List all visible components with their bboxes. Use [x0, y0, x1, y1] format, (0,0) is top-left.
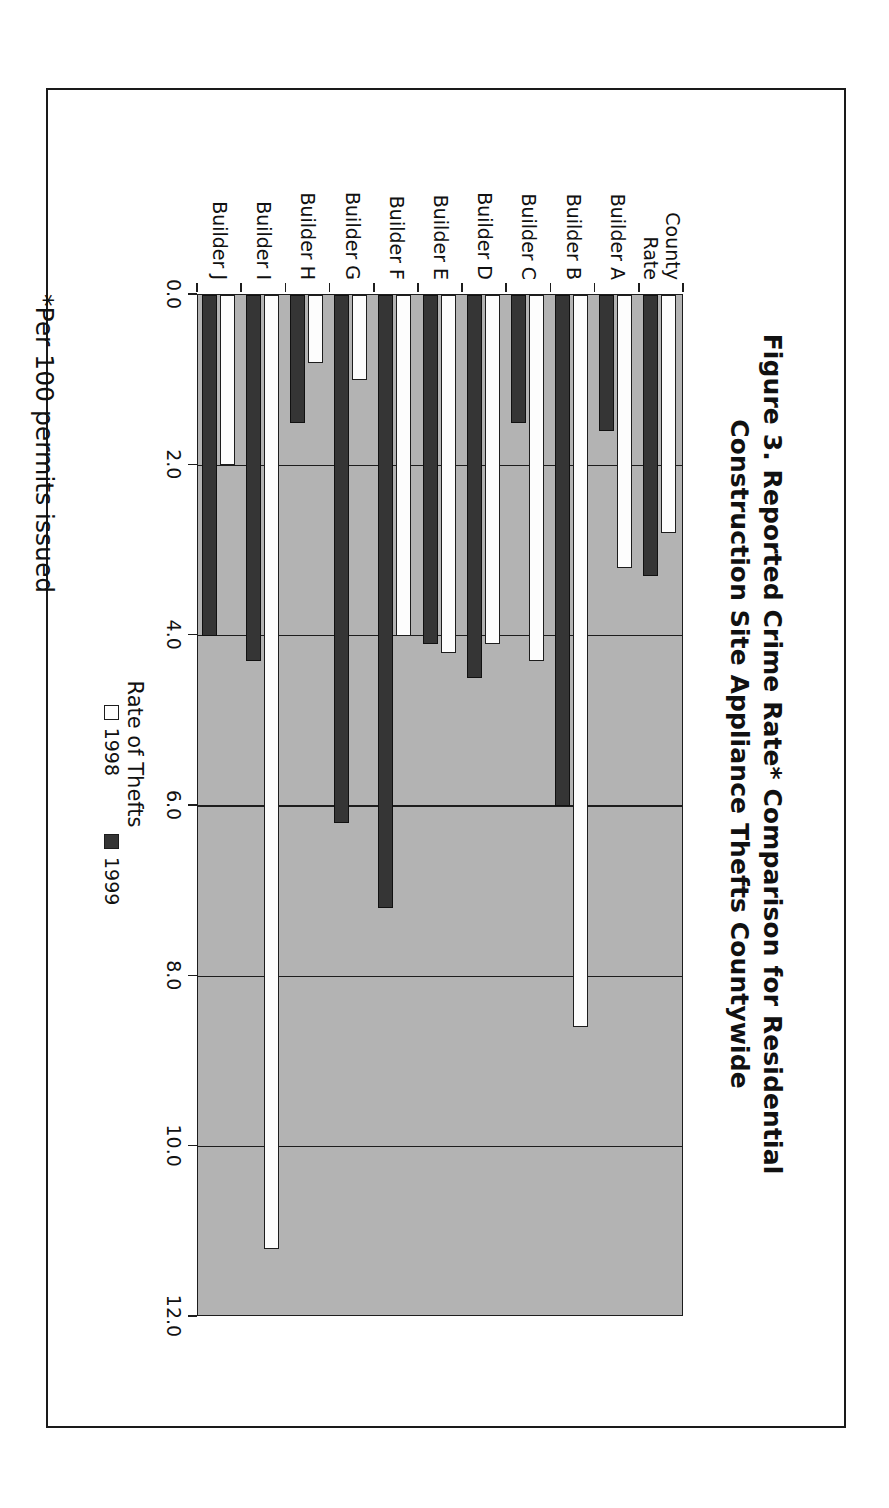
bar-1998-builder-i: [263, 295, 278, 1249]
bar-1999-builder-f: [378, 295, 393, 908]
bar-1999-builder-e: [422, 295, 437, 644]
value-axis-tick-label: 6.0: [163, 770, 185, 840]
chart-legend: 1998 1999: [101, 294, 123, 1316]
category-axis-label-line: Builder H: [296, 134, 318, 280]
rotated-figure-container: Figure 3. Reported Crime Rate* Compariso…: [95, 134, 795, 1374]
bar-1998-builder-d: [484, 295, 499, 644]
bar-1999-builder-d: [466, 295, 481, 678]
category-axis-tick: [196, 283, 198, 292]
category-axis-label-line: Builder E: [429, 134, 451, 280]
value-axis-tick: [188, 804, 197, 806]
category-axis-label-line: Builder D: [473, 134, 495, 280]
category-axis: CountyRateBuilder ABuilder BBuilder CBui…: [197, 134, 683, 292]
bar-1999-builder-i: [245, 295, 260, 661]
category-axis-label-builder-a: Builder A: [605, 134, 627, 280]
category-axis-tick: [240, 283, 242, 292]
bar-1998-builder-a: [617, 295, 632, 568]
category-axis-label-line: Builder J: [208, 134, 230, 280]
category-axis-label-builder-c: Builder C: [517, 134, 539, 280]
legend-item-1999: 1999: [101, 834, 123, 905]
category-band: [593, 295, 637, 1315]
category-axis-label-line: Builder C: [517, 134, 539, 280]
category-band: [240, 295, 284, 1315]
category-axis-label-line: County: [661, 134, 683, 280]
value-axis-tick-label: 8.0: [163, 940, 185, 1010]
category-axis-label-county-rate: CountyRate: [639, 134, 683, 280]
category-band: [461, 295, 505, 1315]
category-axis-label-line: Rate: [639, 134, 661, 280]
value-axis-tick-label: 0.0: [163, 259, 185, 329]
category-band: [196, 295, 240, 1315]
category-axis-tick: [682, 283, 684, 292]
value-axis: 0.02.04.06.08.010.012.0: [187, 294, 197, 1316]
category-band: [284, 295, 328, 1315]
category-axis-label-builder-j: Builder J: [208, 134, 230, 280]
bar-1999-builder-a: [599, 295, 614, 431]
category-band: [637, 295, 681, 1315]
category-band: [372, 295, 416, 1315]
category-axis-tick: [549, 283, 551, 292]
bar-1998-builder-g: [352, 295, 367, 380]
bar-1998-county-rate: [661, 295, 676, 533]
legend-swatch-1998: [104, 705, 119, 720]
category-axis-tick: [461, 283, 463, 292]
category-axis-label-builder-i: Builder I: [252, 134, 274, 280]
bar-1999-county-rate: [643, 295, 658, 576]
value-axis-tick-label: 2.0: [163, 429, 185, 499]
category-axis-tick: [417, 283, 419, 292]
figure-title: Figure 3. Reported Crime Rate* Compariso…: [723, 134, 789, 1374]
bar-1999-builder-c: [510, 295, 525, 423]
figure-title-line-2: Construction Site Appliance Thefts Count…: [723, 134, 756, 1374]
bar-1998-builder-e: [440, 295, 455, 653]
value-axis-tick: [188, 975, 197, 977]
category-band: [549, 295, 593, 1315]
category-axis-tick: [593, 283, 595, 292]
category-axis-label-builder-b: Builder B: [561, 134, 583, 280]
category-axis-tick: [328, 283, 330, 292]
legend-item-1998: 1998: [101, 705, 123, 776]
value-axis-tick: [188, 1145, 197, 1147]
bar-1998-builder-f: [396, 295, 411, 636]
category-band: [328, 295, 372, 1315]
bar-1999-builder-g: [334, 295, 349, 823]
figure-footnote: *Per 100 permits issued: [30, 294, 59, 593]
category-band: [416, 295, 460, 1315]
value-axis-title: Rate of Thefts: [123, 134, 147, 1374]
bar-1998-builder-c: [528, 295, 543, 661]
category-axis-label-line: Builder I: [252, 134, 274, 280]
bar-1998-builder-j: [219, 295, 234, 465]
category-axis-label-line: Builder B: [561, 134, 583, 280]
bar-1999-builder-h: [289, 295, 304, 423]
bar-1999-builder-j: [201, 295, 216, 636]
legend-label-1999: 1999: [101, 857, 123, 905]
category-axis-tick: [638, 283, 640, 292]
category-axis-label-builder-f: Builder F: [384, 134, 406, 280]
category-axis-label-line: Builder G: [340, 134, 362, 280]
value-axis-tick: [188, 293, 197, 295]
category-axis-label-builder-h: Builder H: [296, 134, 318, 280]
category-axis-label-builder-d: Builder D: [473, 134, 495, 280]
category-axis-label-line: Builder A: [605, 134, 627, 280]
category-axis-label-builder-g: Builder G: [340, 134, 362, 280]
figure-page: Figure 3. Reported Crime Rate* Compariso…: [0, 0, 889, 1508]
value-axis-tick: [188, 1315, 197, 1317]
plot-area: [197, 294, 683, 1316]
category-band: [505, 295, 549, 1315]
bar-gap: [304, 295, 307, 1315]
legend-swatch-1999: [104, 834, 119, 849]
value-axis-tick-label: 12.0: [163, 1281, 185, 1351]
bar-1998-builder-h: [307, 295, 322, 363]
value-axis-tick: [188, 634, 197, 636]
legend-label-1998: 1998: [101, 728, 123, 776]
figure-title-line-1: Figure 3. Reported Crime Rate* Compariso…: [756, 134, 789, 1374]
category-axis-tick: [505, 283, 507, 292]
category-axis-tick: [372, 283, 374, 292]
category-axis-label-line: Builder F: [384, 134, 406, 280]
category-axis-tick: [284, 283, 286, 292]
value-axis-tick-label: 10.0: [163, 1111, 185, 1181]
category-axis-label-builder-e: Builder E: [429, 134, 451, 280]
bar-1998-builder-b: [573, 295, 588, 1027]
value-axis-tick: [188, 464, 197, 466]
value-axis-tick-label: 4.0: [163, 600, 185, 670]
bar-1999-builder-b: [555, 295, 570, 806]
